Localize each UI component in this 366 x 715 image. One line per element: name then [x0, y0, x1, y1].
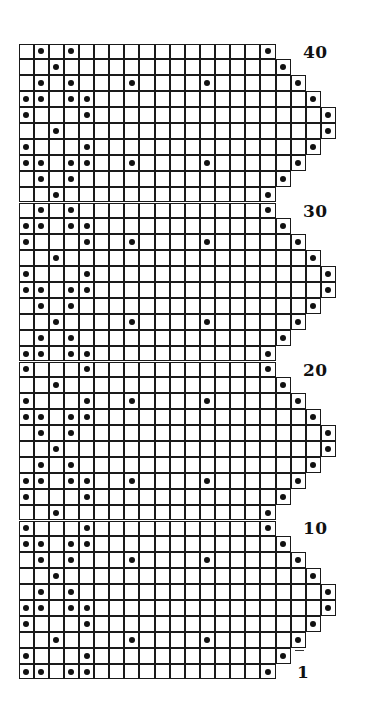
- chart-cell: [291, 123, 306, 139]
- chart-cell: [200, 393, 215, 409]
- stitch-dot-icon: [68, 287, 74, 293]
- chart-cell: [215, 44, 230, 60]
- chart-row-34: [19, 139, 321, 155]
- stitch-dot-icon: [23, 541, 29, 547]
- chart-cell: [245, 489, 260, 505]
- chart-row-5: [19, 601, 337, 617]
- chart-cell: [170, 457, 185, 473]
- chart-cell: [185, 616, 200, 632]
- chart-cell: [215, 346, 230, 362]
- chart-cell: [215, 266, 230, 282]
- chart-cell: [139, 171, 154, 187]
- chart-cell: [79, 314, 94, 330]
- chart-cell: [230, 346, 245, 362]
- stitch-dot-icon: [68, 160, 74, 166]
- chart-cell: [94, 107, 109, 123]
- chart-cell: [19, 664, 34, 680]
- chart-cell: [49, 505, 64, 521]
- chart-cell: [245, 298, 260, 314]
- stitch-dot-icon: [265, 351, 271, 357]
- chart-cell: [49, 187, 64, 203]
- chart-cell: [94, 266, 109, 282]
- chart-cell: [245, 218, 260, 234]
- chart-cell: [109, 282, 124, 298]
- chart-cell: [94, 298, 109, 314]
- chart-cell: [276, 600, 291, 616]
- chart-cell: [260, 139, 275, 155]
- stitch-dot-icon: [265, 366, 271, 372]
- chart-cell: [291, 441, 306, 457]
- chart-cell: [321, 584, 336, 600]
- chart-cell: [185, 377, 200, 393]
- chart-row-40: [19, 44, 276, 60]
- stitch-dot-icon: [129, 637, 135, 643]
- stitch-dot-icon: [68, 414, 74, 420]
- stitch-dot-icon: [129, 319, 135, 325]
- row-label-20: 20: [303, 362, 328, 379]
- stitch-dot-icon: [38, 351, 44, 357]
- chart-cell: [215, 59, 230, 75]
- chart-cell: [94, 282, 109, 298]
- stitch-dot-icon: [53, 128, 59, 134]
- chart-cell: [200, 123, 215, 139]
- chart-cell: [155, 457, 170, 473]
- chart-cell: [215, 457, 230, 473]
- chart-row-3: [19, 632, 306, 648]
- stitch-dot-icon: [38, 176, 44, 182]
- chart-cell: [215, 505, 230, 521]
- chart-cell: [109, 664, 124, 680]
- chart-cell: [185, 139, 200, 155]
- chart-cell: [64, 473, 79, 489]
- chart-cell: [230, 632, 245, 648]
- chart-cell: [94, 218, 109, 234]
- chart-cell: [49, 377, 64, 393]
- stitch-dot-icon: [325, 446, 331, 452]
- chart-cell: [200, 632, 215, 648]
- chart-cell: [94, 600, 109, 616]
- chart-cell: [64, 203, 79, 219]
- chart-cell: [49, 536, 64, 552]
- chart-cell: [155, 44, 170, 60]
- chart-cell: [230, 155, 245, 171]
- chart-cell: [64, 600, 79, 616]
- chart-cell: [19, 123, 34, 139]
- chart-cell: [276, 139, 291, 155]
- chart-cell: [170, 632, 185, 648]
- chart-cell: [79, 234, 94, 250]
- chart-cell: [170, 346, 185, 362]
- chart-cell: [49, 632, 64, 648]
- chart-cell: [94, 91, 109, 107]
- chart-cell: [109, 648, 124, 664]
- chart-cell: [64, 632, 79, 648]
- chart-cell: [124, 393, 139, 409]
- stitch-dot-icon: [84, 144, 90, 150]
- chart-cell: [34, 425, 49, 441]
- chart-cell: [94, 425, 109, 441]
- stitch-dot-icon: [204, 557, 210, 563]
- chart-cell: [200, 139, 215, 155]
- chart-cell: [155, 632, 170, 648]
- chart-row-7: [19, 569, 321, 585]
- stitch-dot-icon: [68, 541, 74, 547]
- chart-cell: [276, 393, 291, 409]
- chart-cell: [245, 536, 260, 552]
- chart-cell: [139, 282, 154, 298]
- chart-cell: [170, 59, 185, 75]
- chart-cell: [49, 521, 64, 537]
- chart-cell: [19, 393, 34, 409]
- chart-cell: [230, 473, 245, 489]
- stitch-dot-icon: [310, 255, 316, 261]
- chart-cell: [245, 362, 260, 378]
- chart-cell: [245, 59, 260, 75]
- chart-cell: [291, 409, 306, 425]
- chart-row-11: [19, 505, 276, 521]
- chart-cell: [200, 362, 215, 378]
- chart-cell: [34, 298, 49, 314]
- chart-cell: [230, 282, 245, 298]
- chart-cell: [64, 521, 79, 537]
- chart-cell: [260, 568, 275, 584]
- chart-cell: [291, 425, 306, 441]
- chart-cell: [79, 298, 94, 314]
- stitch-dot-icon: [129, 398, 135, 404]
- stitch-dot-icon: [84, 239, 90, 245]
